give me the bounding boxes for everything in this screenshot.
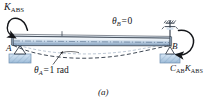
- theta-b-symbol: θ: [112, 16, 117, 26]
- carryover-k-subscript: ABS: [191, 68, 203, 74]
- theta-a-equals: =: [43, 65, 48, 75]
- theta-a-value: 1 rad: [50, 65, 69, 75]
- theta-b-equals: =: [121, 16, 126, 26]
- label-rotation-theta-a: θA = 1 rad: [34, 66, 69, 76]
- k-abs-symbol: K: [4, 1, 11, 12]
- figure-caption: (a): [98, 88, 109, 97]
- carryover-c-subscript: AB: [176, 68, 185, 74]
- beam-stiffness-figure: KABS θB = 0 θA = 1 rad A B CABKABS (a): [0, 0, 220, 105]
- left-support-group: [9, 44, 31, 63]
- label-node-b: B: [172, 42, 178, 51]
- restraint-tick-left: [162, 27, 164, 30]
- theta-b-value: 0: [128, 16, 133, 26]
- k-abs-subscript: ABS: [11, 6, 25, 13]
- right-moment-arrow: [179, 30, 194, 55]
- label-node-a: A: [6, 44, 12, 53]
- label-rotation-theta-b: θB = 0: [112, 17, 132, 27]
- theta-b-subscript: B: [117, 20, 121, 27]
- label-carryover-moment: CABKABS: [170, 64, 203, 73]
- figure-drawing-canvas: [0, 0, 220, 105]
- deflection-curve: [14, 45, 171, 58]
- beam-member: [11, 31, 171, 46]
- theta-a-leader-line: [53, 53, 62, 65]
- theta-a-leader-tail: [62, 52, 79, 53]
- restraint-collar-lower: [167, 28, 174, 30]
- theta-a-symbol: θ: [34, 65, 39, 75]
- restraint-tick-right: [176, 27, 178, 30]
- right-support-base-hatch: [160, 54, 180, 63]
- carryover-k-symbol: K: [185, 63, 191, 73]
- left-moment-arrow: [7, 18, 27, 36]
- theta-a-subscript: A: [39, 69, 43, 76]
- label-applied-moment-k-abs: KABS: [4, 2, 24, 12]
- left-support-base-hatch: [9, 54, 31, 63]
